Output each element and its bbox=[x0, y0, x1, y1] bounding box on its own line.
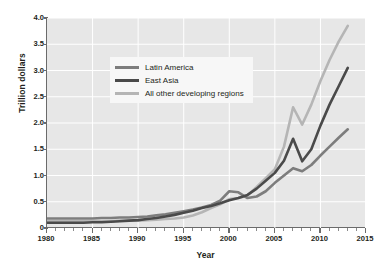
chart-figure: Trillion dollars 00.51.01.52.02.53.03.54… bbox=[0, 0, 381, 274]
legend-swatch-all-other-developing-regions bbox=[115, 92, 139, 95]
y-tick-label: 4.0 bbox=[18, 13, 44, 22]
x-tick-minor bbox=[128, 228, 129, 231]
x-tick-major bbox=[365, 228, 366, 233]
x-tick-minor bbox=[310, 228, 311, 231]
legend-item-east-asia: East Asia bbox=[115, 74, 248, 87]
y-tick-label: 0 bbox=[18, 223, 44, 232]
x-tick-major bbox=[183, 228, 184, 233]
x-tick-major bbox=[46, 228, 47, 233]
x-tick-minor bbox=[356, 228, 357, 231]
y-tick-label: 3.0 bbox=[18, 66, 44, 75]
x-tick-minor bbox=[146, 228, 147, 231]
y-tick-label: 2.5 bbox=[18, 92, 44, 101]
x-tick-minor bbox=[329, 228, 330, 231]
x-tick-label: 1985 bbox=[72, 234, 112, 243]
y-axis-ticks: 00.51.01.52.02.53.03.54.0 bbox=[12, 18, 44, 230]
y-tick-label: 1.5 bbox=[18, 144, 44, 153]
x-tick-minor bbox=[347, 228, 348, 231]
x-tick-label: 2000 bbox=[208, 234, 248, 243]
x-tick-minor bbox=[283, 228, 284, 231]
x-tick-minor bbox=[155, 228, 156, 231]
x-tick-minor bbox=[338, 228, 339, 231]
x-tick-minor bbox=[265, 228, 266, 231]
x-tick-major bbox=[137, 228, 138, 233]
x-tick-minor bbox=[73, 228, 74, 231]
x-tick-minor bbox=[292, 228, 293, 231]
series-lines bbox=[47, 18, 366, 228]
legend-swatch-latin-america bbox=[115, 66, 139, 69]
legend-item-all-other-developing-regions: All other developing regions bbox=[115, 87, 248, 100]
x-tick-minor bbox=[219, 228, 220, 231]
x-tick-major bbox=[228, 228, 229, 233]
x-tick-label: 1980 bbox=[26, 234, 66, 243]
x-tick-minor bbox=[64, 228, 65, 231]
legend-label-all-other-developing-regions: All other developing regions bbox=[145, 90, 244, 98]
x-tick-label: 2005 bbox=[254, 234, 294, 243]
x-tick-major bbox=[319, 228, 320, 233]
x-tick-minor bbox=[110, 228, 111, 231]
x-tick-minor bbox=[237, 228, 238, 231]
x-tick-minor bbox=[247, 228, 248, 231]
x-axis-title: Year bbox=[46, 250, 365, 260]
x-tick-label: 1990 bbox=[117, 234, 157, 243]
x-tick-minor bbox=[201, 228, 202, 231]
legend-item-latin-america: Latin America bbox=[115, 61, 248, 74]
legend-swatch-east-asia bbox=[115, 79, 139, 82]
x-tick-minor bbox=[192, 228, 193, 231]
x-tick-minor bbox=[301, 228, 302, 231]
x-tick-minor bbox=[174, 228, 175, 231]
plot-area: Latin America East Asia All other develo… bbox=[46, 18, 365, 228]
y-tick-label: 3.5 bbox=[18, 39, 44, 48]
x-tick-minor bbox=[210, 228, 211, 231]
x-tick-label: 2010 bbox=[299, 234, 339, 243]
x-tick-minor bbox=[256, 228, 257, 231]
x-tick-minor bbox=[164, 228, 165, 231]
x-tick-minor bbox=[82, 228, 83, 231]
y-tick-label: 0.5 bbox=[18, 197, 44, 206]
x-tick-minor bbox=[101, 228, 102, 231]
x-tick-label: 2015 bbox=[345, 234, 381, 243]
x-tick-major bbox=[274, 228, 275, 233]
chart-legend: Latin America East Asia All other develo… bbox=[110, 57, 253, 103]
x-tick-minor bbox=[55, 228, 56, 231]
legend-label-east-asia: East Asia bbox=[145, 77, 178, 85]
legend-label-latin-america: Latin America bbox=[145, 64, 193, 72]
x-tick-label: 1995 bbox=[163, 234, 203, 243]
y-tick-label: 1.0 bbox=[18, 171, 44, 180]
x-tick-major bbox=[92, 228, 93, 233]
x-tick-minor bbox=[119, 228, 120, 231]
y-tick-label: 2.0 bbox=[18, 118, 44, 127]
